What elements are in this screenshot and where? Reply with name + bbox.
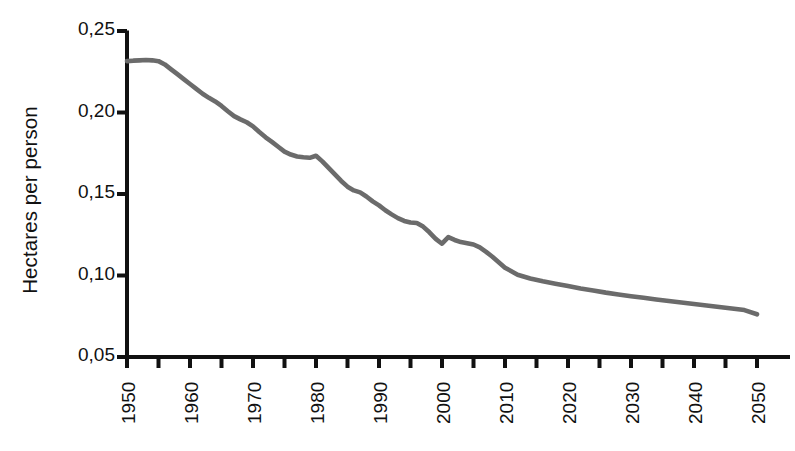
chart-series-group: [127, 60, 757, 314]
chart-plot-svg: [0, 0, 795, 451]
chart-axes: [117, 31, 790, 369]
chart-container: Hectares per person 0,250,200,150,100,05…: [0, 0, 795, 451]
data-line: [127, 60, 757, 314]
